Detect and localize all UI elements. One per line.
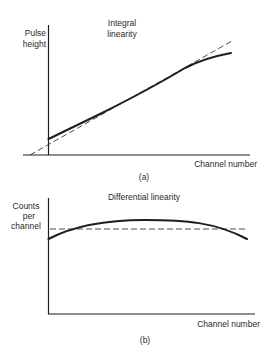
panel-a-xlabel: Channel number (194, 159, 257, 169)
panel-a-ylabel-line1: Pulse (25, 28, 47, 38)
panel-b-measured-curve (49, 220, 248, 239)
panel-b-ylabel-line2: per (23, 211, 35, 221)
panel-a-title-line1: Integral (108, 18, 136, 28)
panel-b-title: Differential linearity (108, 192, 181, 202)
panel-b-caption: (b) (140, 335, 151, 345)
linearity-diagram: Pulse height Integral linearity Channel … (0, 0, 275, 356)
panel-b-ylabel-line3: channel (11, 221, 41, 231)
panel-a-title-line2: linearity (107, 29, 137, 39)
panel-a-measured-curve (49, 53, 232, 139)
panel-a-caption: (a) (139, 172, 150, 182)
panel-b-ylabel-line1: Counts (13, 201, 40, 211)
panel-a-ylabel-line2: height (23, 39, 47, 49)
panel-a: Pulse height Integral linearity Channel … (23, 18, 257, 182)
panel-b: Counts per channel Differential linearit… (11, 192, 260, 345)
panel-b-xlabel: Channel number (197, 319, 260, 329)
